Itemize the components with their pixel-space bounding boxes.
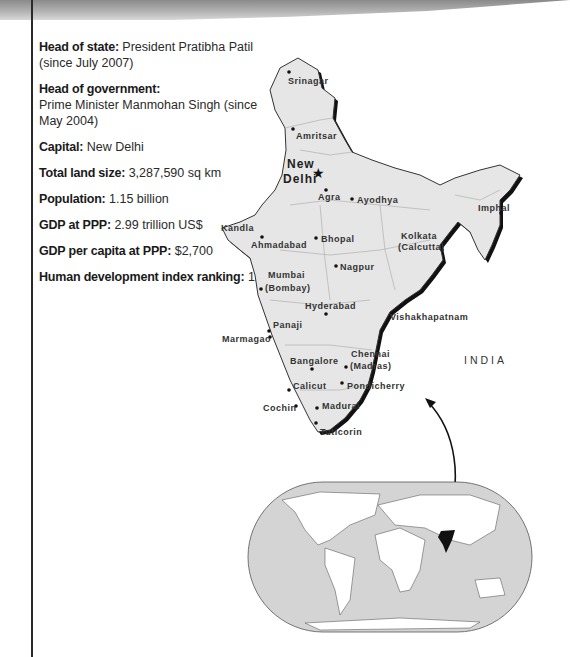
world-locator-map — [248, 482, 532, 632]
svg-text:New: New — [287, 157, 315, 171]
svg-text:Amritsar: Amritsar — [296, 131, 337, 141]
svg-text:Madurai: Madurai — [322, 401, 360, 411]
svg-text:Bhopal: Bhopal — [321, 234, 355, 244]
svg-text:Chennai: Chennai — [351, 349, 390, 359]
svg-text:Cochin: Cochin — [263, 403, 297, 413]
svg-text:Srinagar: Srinagar — [288, 76, 329, 86]
svg-text:Hyderabad: Hyderabad — [305, 301, 356, 311]
svg-text:Panaji: Panaji — [273, 320, 303, 330]
arrow-head-icon — [425, 398, 436, 408]
svg-text:Ayodhya: Ayodhya — [357, 195, 399, 205]
svg-text:Marmagao: Marmagao — [222, 334, 271, 344]
svg-text:Bangalore: Bangalore — [290, 356, 339, 366]
svg-text:Kandla: Kandla — [221, 223, 255, 233]
svg-text:Nagpur: Nagpur — [340, 262, 375, 272]
svg-text:Vishakhapatnam: Vishakhapatnam — [390, 312, 468, 322]
svg-text:Delhi: Delhi — [283, 172, 317, 186]
india-map: ★ Srinagar Amritsar Agra Ayodhya Imphal … — [0, 0, 570, 657]
svg-text:Ahmadabad: Ahmadabad — [251, 240, 307, 250]
svg-text:Calicut: Calicut — [293, 381, 327, 391]
svg-text:Tuticorin: Tuticorin — [320, 427, 362, 437]
svg-text:Agra: Agra — [318, 192, 341, 202]
svg-text:(Bombay): (Bombay) — [265, 283, 311, 293]
svg-text:Kolkata: Kolkata — [401, 231, 438, 241]
svg-text:Pondicherry: Pondicherry — [347, 381, 405, 391]
svg-text:Imphal: Imphal — [478, 203, 510, 213]
svg-text:(Calcutta): (Calcutta) — [398, 242, 445, 252]
svg-text:Mumbai: Mumbai — [268, 270, 305, 280]
svg-text:(Madras): (Madras) — [350, 361, 392, 371]
country-label: INDIA — [464, 354, 507, 366]
